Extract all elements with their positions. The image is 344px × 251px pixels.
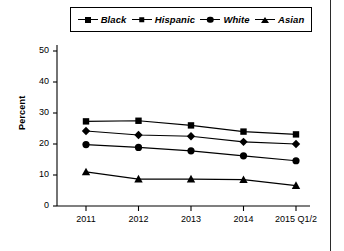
y-tick-label-30: 30 xyxy=(27,107,49,117)
diamond-marker-icon xyxy=(132,15,152,25)
legend-label-hispanic: Hispanic xyxy=(155,14,195,25)
legend-item-white: White xyxy=(200,14,249,25)
series-asian xyxy=(82,168,300,189)
y-tick-label-50: 50 xyxy=(27,45,49,55)
chart-figure: Black Hispanic White Asian Perce xyxy=(0,0,344,251)
triangle-marker-icon xyxy=(255,15,275,25)
series-hispanic xyxy=(82,127,300,148)
data-series-layer xyxy=(82,118,300,189)
y-tick-label-40: 40 xyxy=(27,76,49,86)
legend-item-hispanic: Hispanic xyxy=(132,14,195,25)
y-tick-label-20: 20 xyxy=(27,138,49,148)
chart-legend: Black Hispanic White Asian xyxy=(70,7,312,32)
legend-item-asian: Asian xyxy=(255,14,304,25)
series-white xyxy=(82,141,299,164)
circle-marker-icon xyxy=(200,15,220,25)
legend-label-black: Black xyxy=(101,14,127,25)
legend-label-asian: Asian xyxy=(278,14,304,25)
y-tick-label-10: 10 xyxy=(27,169,49,179)
plot-area: Percent 01020304050 20112012201320142015… xyxy=(0,34,330,251)
y-tick-label-0: 0 xyxy=(27,200,49,210)
square-marker-icon xyxy=(78,15,98,25)
legend-item-black: Black xyxy=(78,14,127,25)
x-tick-label-2015-q1-2: 2015 Q1/2 xyxy=(261,214,331,224)
axis-lines xyxy=(53,45,310,211)
legend-label-white: White xyxy=(223,14,249,25)
